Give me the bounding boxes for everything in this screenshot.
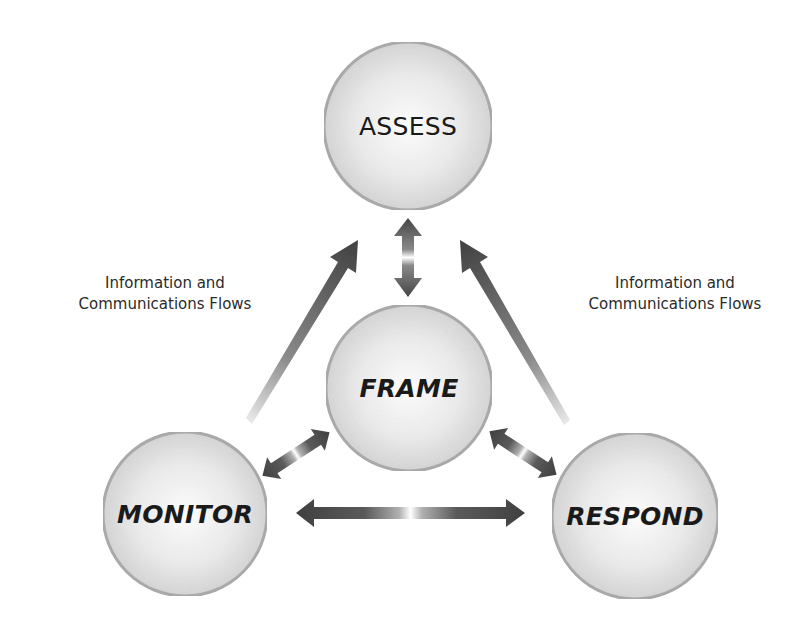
node-monitor: MONITOR — [103, 432, 267, 596]
double-arrow-frame-respond — [482, 420, 563, 485]
node-respond: RESPOND — [552, 433, 718, 599]
flow-annotation-left-line2: Communications Flows — [50, 294, 280, 315]
flow-annotation-right-line2: Communications Flows — [560, 294, 790, 315]
node-label-assess: ASSESS — [359, 112, 457, 141]
flow-annotation-right: Information and Communications Flows — [560, 273, 790, 315]
double-arrow-frame-assess — [394, 218, 422, 297]
node-label-frame: FRAME — [359, 374, 458, 403]
flow-annotation-left-line1: Information and — [50, 273, 280, 294]
node-frame: FRAME — [326, 305, 492, 471]
flow-annotation-left: Information and Communications Flows — [50, 273, 280, 315]
risk-management-diagram: ASSESS FRAME MONITOR RESPOND — [0, 0, 810, 631]
double-arrow-monitor-respond — [296, 499, 525, 527]
node-label-respond: RESPOND — [566, 502, 704, 531]
flow-annotation-right-line1: Information and — [560, 273, 790, 294]
double-arrow-frame-monitor — [255, 421, 336, 486]
node-assess: ASSESS — [324, 42, 492, 210]
node-label-monitor: MONITOR — [117, 500, 253, 529]
